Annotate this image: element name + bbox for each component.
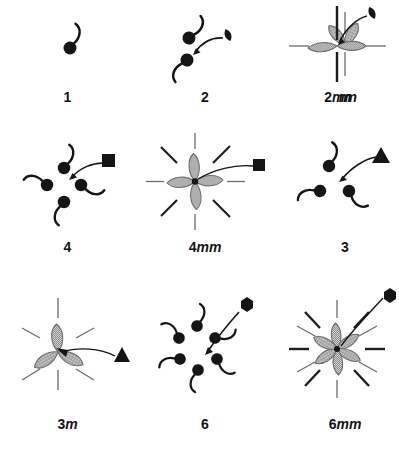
comma-icon: [181, 13, 205, 47]
petal-icon: [191, 181, 201, 209]
label-mirror: mm: [336, 416, 361, 432]
axis-connector-line: [341, 298, 383, 346]
label-number: 6: [201, 416, 209, 432]
comma-motif-group: [171, 13, 204, 85]
diagram-svg-2mm: [282, 0, 399, 90]
point-group-label-2: 2: [201, 90, 209, 122]
rotation-arrow-icon: [339, 157, 376, 182]
point-group-label-3m: 3m: [57, 417, 77, 455]
comma-icon: [75, 178, 105, 193]
petal-icon: [167, 177, 195, 187]
diagram-svg-1: [8, 0, 128, 90]
comma-icon: [339, 182, 372, 209]
diagram-svg-4mm: [135, 123, 275, 238]
comma-icon: [58, 144, 73, 174]
comma-icon: [207, 321, 238, 349]
label-mirror: mm: [196, 239, 221, 255]
rotation-arrow-icon: [193, 38, 223, 55]
point-group-diagram-6mm: [275, 280, 399, 417]
comma-motif-group: [24, 144, 105, 225]
square-4fold-icon: [253, 159, 265, 171]
label-number: 2: [201, 89, 209, 105]
petal-icon: [189, 153, 199, 181]
point-group-diagram-4: [0, 120, 135, 240]
point-group-cell-3m: 3m: [0, 280, 135, 455]
point-group-diagram-6: [135, 280, 275, 417]
rotation-arrow-icon: [69, 163, 103, 180]
lens-2fold-icon: [366, 6, 377, 20]
point-group-diagram-1: [0, 0, 135, 90]
label-number: 3: [57, 416, 65, 432]
point-group-label-3: 3: [341, 240, 349, 280]
diagram-svg-4: [0, 123, 135, 238]
point-group-label-1: 1: [64, 90, 72, 122]
comma-icon: [189, 304, 206, 333]
label-mirror: mm: [332, 89, 357, 105]
diagram-svg-2: [140, 0, 270, 90]
label-number: 4: [64, 239, 72, 255]
diagram-svg-6mm: [275, 286, 399, 411]
comma-motif-group: [296, 142, 373, 209]
petal-icon: [308, 42, 337, 52]
point-group-label-4: 4: [64, 240, 72, 280]
point-group-cell-6: 6: [135, 280, 275, 455]
label-number: 2: [324, 89, 332, 105]
petal-motif-group: [308, 41, 366, 52]
rotation-center-dot: [192, 178, 198, 184]
comma-icon: [157, 349, 188, 377]
point-group-cell-2: 2: [135, 0, 275, 120]
label-mirror: m: [65, 416, 77, 432]
point-group-label-6: 6: [201, 417, 209, 455]
mirror-line-group: [289, 6, 386, 82]
point-group-diagram-3m: [0, 280, 135, 417]
label-number: 1: [64, 89, 72, 105]
triangle-3fold-icon: [114, 347, 130, 362]
point-group-label-2mm: 2mm: [324, 90, 357, 122]
point-group-cell-1: 1: [0, 0, 135, 120]
point-group-label-4mm: 4mm: [189, 240, 222, 280]
rotation-center-dot: [334, 346, 340, 352]
label-number: 3: [341, 239, 349, 255]
diagram-svg-3m: [0, 286, 135, 411]
comma-icon: [157, 321, 188, 346]
square-4fold-icon: [102, 154, 115, 167]
petal-icon: [31, 348, 61, 372]
diagram-svg-3: [280, 123, 399, 238]
comma-icon: [189, 364, 206, 393]
comma-motif-group: [63, 24, 79, 55]
point-group-diagram-4mm: [135, 120, 275, 240]
hexagon-6fold-icon: [384, 288, 396, 303]
comma-icon: [171, 51, 195, 85]
petal-motif-group: [31, 324, 85, 372]
point-group-cell-4: 4: [0, 120, 135, 280]
comma-icon: [321, 142, 339, 173]
comma-icon: [208, 351, 239, 376]
lens-2fold-icon: [223, 28, 234, 42]
point-group-diagram-2: [135, 0, 275, 90]
rotation-arrow-icon: [338, 16, 367, 45]
hexagon-6fold-icon: [241, 297, 253, 312]
comma-icon: [63, 24, 79, 55]
point-group-diagram-3: [275, 120, 399, 240]
diagram-svg-6: [135, 286, 275, 411]
point-group-label-6mm: 6mm: [329, 417, 362, 455]
point-group-cell-4mm: 4mm: [135, 120, 275, 280]
comma-icon: [55, 195, 70, 225]
point-group-cell-3: 3: [275, 120, 399, 280]
comma-motif-group: [157, 304, 239, 393]
comma-icon: [296, 179, 329, 209]
petal-icon: [52, 324, 63, 352]
point-group-cell-6mm: 6mm: [275, 280, 399, 455]
petal-icon: [195, 175, 223, 185]
point-group-diagram-2mm: [282, 0, 399, 90]
comma-icon: [24, 175, 54, 190]
point-group-cell-2mm: 2mm: [282, 0, 399, 120]
triangle-3fold-icon: [372, 147, 390, 163]
